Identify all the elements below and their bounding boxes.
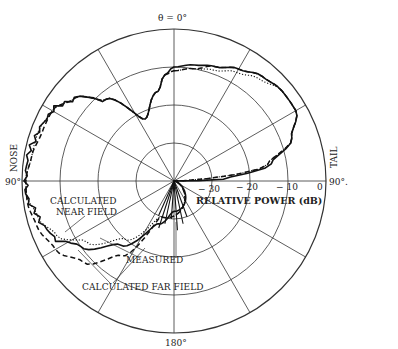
tick-label-0: 0: [317, 183, 323, 192]
grid-spoke: [174, 181, 306, 257]
polar-chart: [0, 0, 398, 349]
near-field-label-line1: CALCULATED: [50, 197, 117, 206]
data-series: [24, 65, 297, 265]
angle-label-bottom: 180°: [165, 339, 187, 348]
measured-label: MEASURED: [126, 256, 183, 265]
series-calculated-far-field: [26, 66, 297, 264]
tick-label-m10: − 10: [276, 183, 298, 192]
far-field-label: CALCULATED FAR FIELD: [82, 283, 204, 292]
grid-spoke: [174, 105, 306, 181]
far-field-leader-1: [78, 250, 110, 283]
nose-label: NOSE: [10, 144, 19, 172]
far-field-leader-2: [113, 248, 145, 283]
tick-label-m20: − 20: [236, 183, 258, 192]
angle-label-right: 90°.: [329, 178, 348, 187]
tick-label-m30: − 30: [198, 185, 220, 194]
angle-label-left: 90°: [5, 178, 21, 187]
grid-spoke: [42, 105, 174, 181]
tail-label: TAIL: [330, 146, 339, 168]
radial-axis-title: RELATIVE POWER (dB): [196, 196, 322, 206]
near-field-label-line2: NEAR FIELD: [56, 208, 117, 217]
angle-label-top: θ = 0°: [158, 14, 187, 23]
